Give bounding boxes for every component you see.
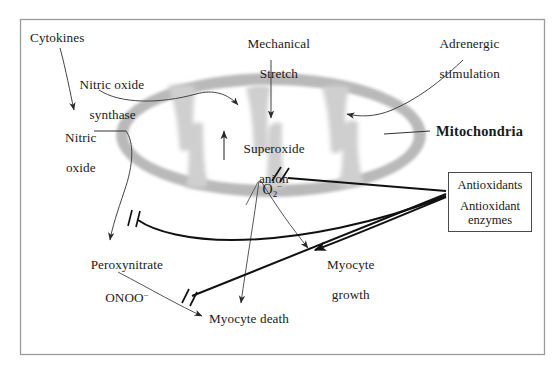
label-peroxynitrate: Peroxynitrate ONOO– bbox=[73, 242, 167, 320]
superoxide-formula-subscript: 2 bbox=[273, 189, 278, 199]
mechanical-stretch-line-1: Mechanical bbox=[248, 36, 311, 51]
mitochondria-ros-diagram: Cytokines Nitric oxide synthase Nitric o… bbox=[0, 0, 558, 367]
superoxide-formula-superscript: – bbox=[277, 180, 282, 190]
peroxynitrate-line-1: Peroxynitrate bbox=[91, 257, 163, 272]
line-antioxidants-inhibit-peroxynitrate bbox=[138, 196, 446, 240]
label-cytokines: Cytokines bbox=[30, 30, 84, 45]
label-mitochondria: Mitochondria bbox=[436, 124, 523, 139]
label-superoxide-formula: O2– bbox=[248, 163, 282, 217]
label-nitric-oxide: Nitric oxide bbox=[50, 115, 98, 190]
adrenergic-line-2: stimulation bbox=[440, 66, 500, 81]
inhibition-marker-peroxynitrate bbox=[128, 210, 140, 227]
myocyte-growth-line-2: growth bbox=[332, 287, 370, 302]
peroxynitrate-charge: – bbox=[144, 289, 149, 299]
nitric-oxide-line-1: Nitric bbox=[65, 130, 96, 145]
label-mechanical-stretch: Mechanical Stretch bbox=[227, 21, 317, 96]
antioxidants-box: Antioxidants Antioxidant enzymes bbox=[448, 172, 532, 232]
superoxide-line-1: Superoxide bbox=[244, 141, 305, 156]
myocyte-growth-line-1: Myocyte bbox=[327, 257, 375, 272]
antioxidant-enzymes-label-line2: enzymes bbox=[449, 213, 531, 228]
antioxidant-enzymes-label-line1: Antioxidant bbox=[449, 199, 531, 214]
superoxide-formula-base: O bbox=[262, 182, 272, 197]
nos-line-1: Nitric oxide bbox=[80, 77, 145, 92]
inhibition-marker-myocyte-death bbox=[182, 289, 197, 306]
mechanical-stretch-line-2: Stretch bbox=[260, 66, 298, 81]
nitric-oxide-line-2: oxide bbox=[66, 160, 96, 175]
antioxidants-label: Antioxidants bbox=[449, 178, 531, 193]
adrenergic-line-1: Adrenergic bbox=[439, 36, 499, 51]
label-myocyte-growth: Myocyte growth bbox=[313, 242, 375, 317]
label-adrenergic-stimulation: Adrenergic stimulation bbox=[418, 21, 508, 96]
label-myocyte-death: Myocyte death bbox=[209, 311, 289, 326]
peroxynitrate-formula: ONOO bbox=[105, 290, 144, 305]
